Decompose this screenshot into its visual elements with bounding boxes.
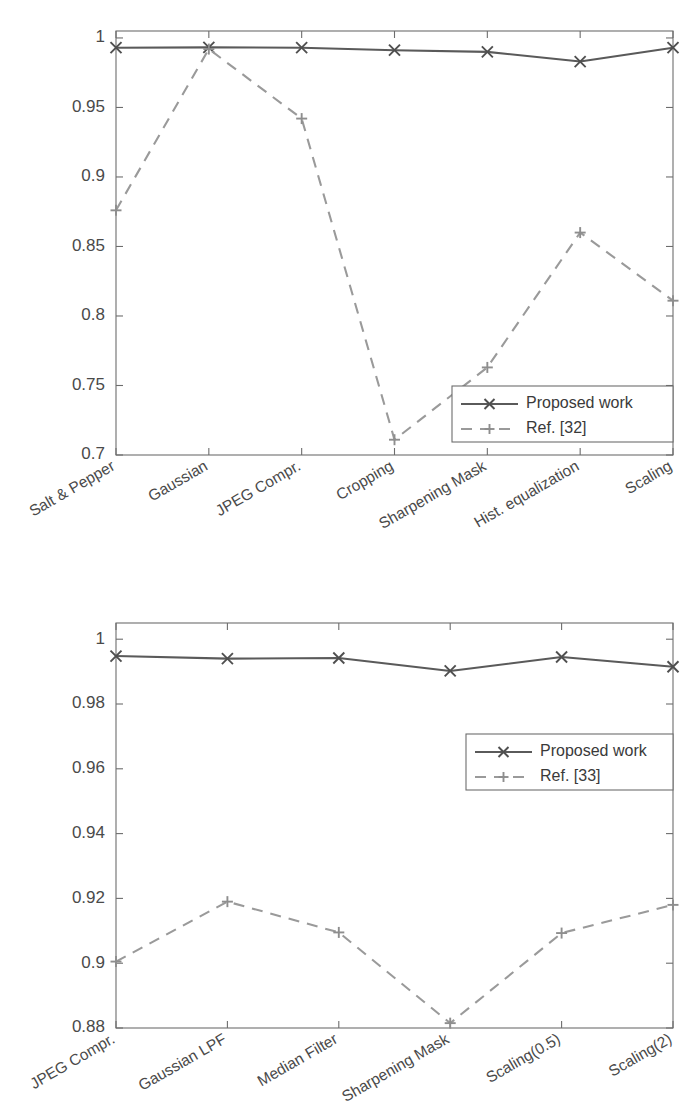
chart-legend: Proposed workRef. [32] bbox=[452, 386, 673, 442]
series-line-proposed bbox=[116, 656, 673, 671]
y-axis-tick-label: 0.94 bbox=[72, 823, 105, 842]
x-axis-tick-label: Hist. equalization bbox=[471, 457, 582, 531]
y-axis-tick-label: 0.88 bbox=[72, 1017, 105, 1036]
y-axis-tick-label: 0.96 bbox=[72, 758, 105, 777]
x-axis-tick-label: Scaling bbox=[622, 457, 675, 497]
chart-legend: Proposed workRef. [33] bbox=[466, 734, 673, 790]
chart-panel-bottom: 0.880.90.920.940.960.981JPEG Compr.Gauss… bbox=[0, 550, 700, 1120]
y-axis-tick-label: 0.9 bbox=[81, 166, 105, 185]
x-axis-tick-label: Median Filter bbox=[254, 1030, 340, 1090]
x-axis-tick-label: Gaussian LPF bbox=[135, 1030, 229, 1094]
data-point-marker bbox=[668, 899, 679, 910]
y-axis-tick-label: 0.8 bbox=[81, 305, 105, 324]
chart-panel-top: 0.70.750.80.850.90.951Salt & PepperGauss… bbox=[0, 0, 700, 550]
data-point-marker bbox=[389, 434, 400, 445]
y-axis-tick-label: 0.98 bbox=[72, 693, 105, 712]
x-axis-tick-label: Salt & Pepper bbox=[26, 457, 117, 520]
y-axis-tick-label: 0.9 bbox=[81, 953, 105, 972]
line-chart-top: 0.70.750.80.850.90.951Salt & PepperGauss… bbox=[0, 0, 700, 550]
data-point-marker bbox=[111, 205, 122, 216]
x-axis-tick-label: JPEG Compr. bbox=[27, 1030, 118, 1092]
x-axis-tick-label: Sharpening Mask bbox=[339, 1030, 452, 1105]
x-axis-tick-label: JPEG Compr. bbox=[213, 457, 304, 519]
y-axis-tick-label: 1 bbox=[96, 27, 105, 46]
line-chart-bottom: 0.880.90.920.940.960.981JPEG Compr.Gauss… bbox=[0, 550, 700, 1120]
legend-entry-label: Proposed work bbox=[526, 394, 634, 411]
legend-entry-label: Ref. [33] bbox=[540, 767, 600, 784]
y-axis-tick-label: 0.92 bbox=[72, 888, 105, 907]
x-axis-tick-label: Cropping bbox=[333, 457, 396, 503]
x-axis-tick-label: Gaussian bbox=[145, 457, 210, 504]
legend-entry-label: Proposed work bbox=[540, 742, 648, 759]
y-axis-tick-label: 1 bbox=[96, 629, 105, 648]
plot-axis-box bbox=[116, 623, 673, 1028]
series-line-reference bbox=[116, 49, 673, 440]
y-axis-tick-label: 0.85 bbox=[72, 236, 105, 255]
legend-entry-label: Ref. [32] bbox=[526, 419, 586, 436]
data-point-marker bbox=[296, 113, 307, 124]
data-point-marker bbox=[111, 956, 122, 967]
y-axis-tick-label: 0.95 bbox=[72, 97, 105, 116]
series-line-reference bbox=[116, 902, 673, 1024]
x-axis-tick-label: Scaling(2) bbox=[606, 1030, 675, 1080]
y-axis-tick-label: 0.75 bbox=[72, 375, 105, 394]
x-axis-tick-label: Scaling(0.5) bbox=[483, 1030, 563, 1086]
data-point-marker bbox=[222, 896, 233, 907]
